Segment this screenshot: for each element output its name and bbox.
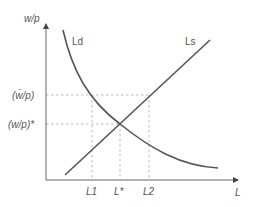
rigid-wage-label: (w̄/p) — [12, 89, 34, 101]
l1-label: L1 — [86, 186, 97, 197]
demand-curve-label: Ld — [72, 36, 83, 47]
labor-supply-curve — [65, 40, 210, 175]
supply-curve-label: Ls — [185, 36, 196, 47]
x-axis-label: L — [235, 187, 241, 198]
labor-demand-curve — [63, 30, 218, 168]
equilibrium-wage-label: (w/p)* — [8, 119, 35, 130]
guide-lines — [46, 95, 149, 180]
y-axis-label: w/p — [24, 13, 40, 24]
labor-market-diagram: w/p L Ld Ls (w̄/p) (w/p)* L1 L* L2 — [0, 0, 254, 207]
l2-label: L2 — [143, 186, 155, 197]
lstar-label: L* — [114, 186, 125, 197]
